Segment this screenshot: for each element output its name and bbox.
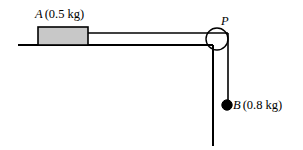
mass-b-mass-value: (0.8 kg)	[243, 98, 283, 112]
block-a-symbol: A	[35, 7, 43, 21]
diagram-canvas	[0, 0, 303, 150]
mass-b-marker	[222, 100, 232, 110]
physics-diagram-pulley-system: A(0.5 kg) P B(0.8 kg)	[0, 0, 303, 150]
block-a-mass-value: (0.5 kg)	[45, 7, 85, 21]
mass-b-label: B(0.8 kg)	[233, 99, 282, 112]
pulley-symbol: P	[221, 14, 229, 28]
block-a-body	[38, 27, 88, 45]
mass-b-symbol: B	[233, 98, 241, 112]
block-a-label: A(0.5 kg)	[35, 8, 84, 21]
pulley-wheel	[206, 28, 228, 50]
pulley-label: P	[221, 15, 229, 28]
